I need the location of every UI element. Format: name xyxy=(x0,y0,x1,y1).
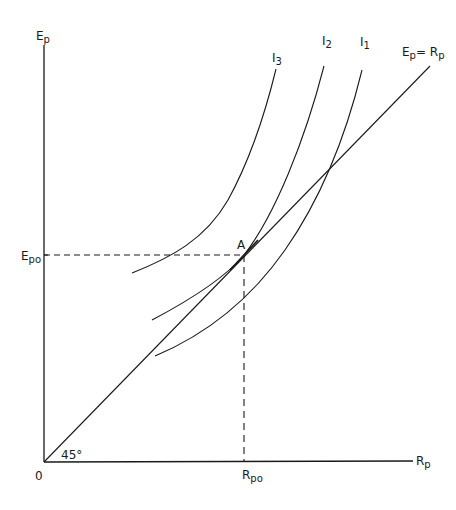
y-axis-label: Ep xyxy=(36,30,50,45)
diagram-svg xyxy=(0,0,456,510)
x-axis-label: Rp xyxy=(416,455,431,470)
curve-label-i3: I3 xyxy=(272,52,282,67)
indifference-curve-diagram: Ep Ep= Rp I3 I2 I1 A Epo 0 45° Rpo Rp xyxy=(0,0,456,510)
angle-label: 45° xyxy=(61,449,82,461)
origin-label: 0 xyxy=(35,470,43,482)
rpo-label: Rpo xyxy=(242,469,263,484)
point-a-label: A xyxy=(237,239,245,251)
curve-i2 xyxy=(152,66,324,320)
curve-label-i2: I2 xyxy=(322,35,332,50)
curve-label-i1: I1 xyxy=(360,36,370,51)
x-axis xyxy=(44,461,413,462)
line-45-degree xyxy=(44,66,430,462)
epo-label: Epo xyxy=(21,250,41,265)
curve-i1 xyxy=(155,70,362,356)
curve-i3 xyxy=(132,69,276,273)
line-45-label: Ep= Rp xyxy=(402,46,445,61)
